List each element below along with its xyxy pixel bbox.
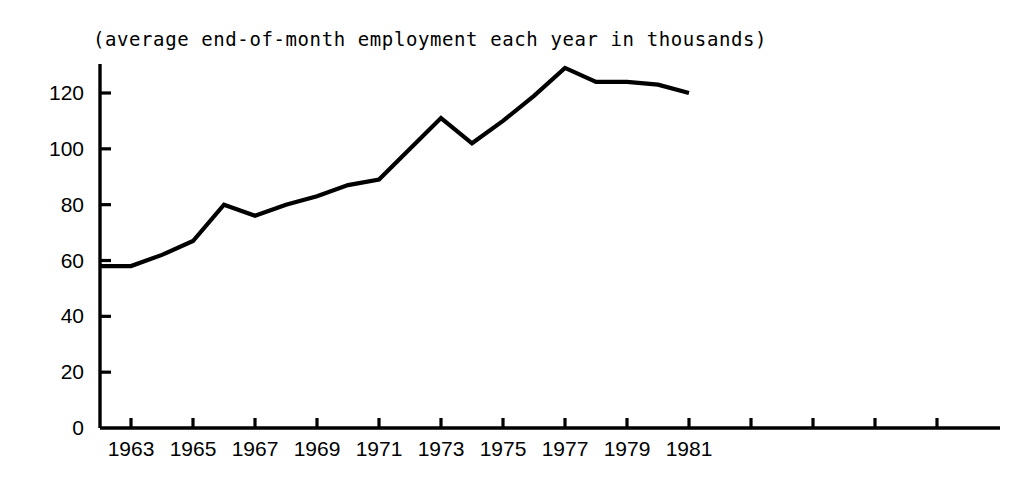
y-axis-tick-label: 40: [14, 305, 84, 326]
y-axis-tick-label: 0: [14, 417, 84, 438]
x-axis-tick-label: 1973: [406, 438, 476, 459]
y-axis-tick-label: 80: [14, 194, 84, 215]
chart-page: (average end-of-month employment each ye…: [0, 0, 1014, 479]
y-axis-tick-label: 120: [14, 82, 84, 103]
x-axis-tick-label: 1969: [282, 438, 352, 459]
y-axis-tick-label: 60: [14, 250, 84, 271]
x-axis-tick-label: 1963: [96, 438, 166, 459]
x-axis-tick-label: 1981: [654, 438, 724, 459]
y-axis-tick-label: 100: [14, 138, 84, 159]
x-axis-tick-label: 1975: [468, 438, 538, 459]
y-axis-tick-label: 20: [14, 361, 84, 382]
x-axis-tick-label: 1965: [158, 438, 228, 459]
x-axis-tick-label: 1971: [344, 438, 414, 459]
x-axis-tick-label: 1979: [592, 438, 662, 459]
data-series-line: [100, 68, 689, 266]
axes: [100, 64, 1000, 428]
x-axis-tick-label: 1967: [220, 438, 290, 459]
line-chart-plot: [0, 0, 1014, 479]
x-axis-tick-label: 1977: [530, 438, 600, 459]
